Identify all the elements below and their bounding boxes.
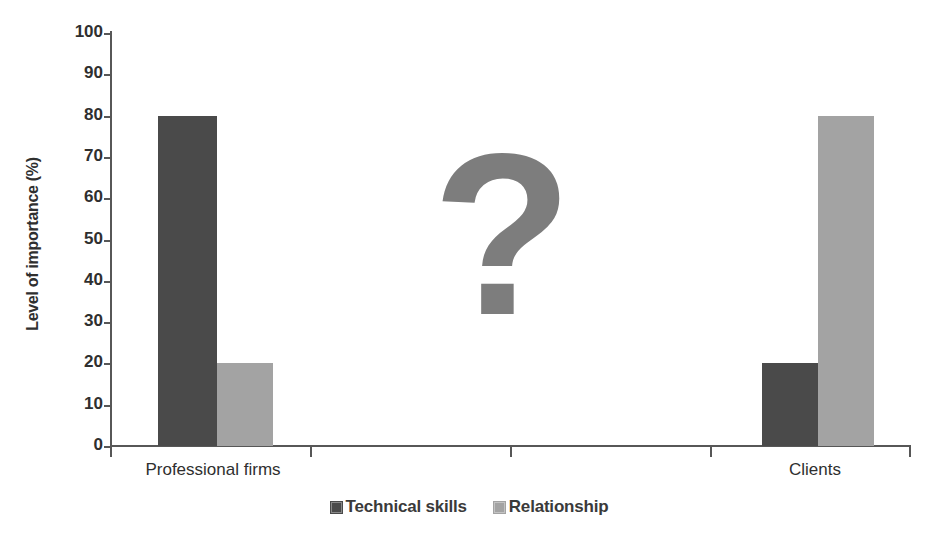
y-tick-label-10: 10 [84,394,103,414]
y-tick-label-80: 80 [84,105,103,125]
question-mark-annotation: ? [432,120,572,350]
y-tick-label-40: 40 [84,270,103,290]
legend-swatch-light-icon [493,501,506,514]
legend-item-relationship: Relationship [493,497,609,517]
legend: Technical skills Relationship [0,497,938,517]
legend-swatch-dark-icon [330,501,343,514]
bar-chart: Level of importance (%) 100 90 80 70 60 … [0,0,938,558]
y-tick-label-60: 60 [84,187,103,207]
y-tick-label-30: 30 [84,311,103,331]
legend-label-technical-skills: Technical skills [346,497,467,517]
y-tick-label-90: 90 [84,63,103,83]
bar-clients-relationship [818,116,874,446]
x-tick-0 [110,447,112,457]
x-tick-2 [510,447,512,457]
y-tick-label-0: 0 [94,435,103,455]
legend-item-technical-skills: Technical skills [330,497,467,517]
y-tick-label-50: 50 [84,229,103,249]
x-axis-label-clients: Clients [789,460,841,480]
bar-clients-technical-skills [762,363,818,446]
x-tick-1 [310,447,312,457]
x-tick-4 [909,447,911,457]
y-axis-title: Level of importance (%) [24,104,42,384]
y-tick-label-70: 70 [84,146,103,166]
bar-professional-firms-technical-skills [158,116,217,446]
x-axis-label-professional-firms: Professional firms [145,460,280,480]
legend-label-relationship: Relationship [509,497,609,517]
x-tick-3 [710,447,712,457]
bar-professional-firms-relationship [217,363,273,446]
y-tick-label-20: 20 [84,352,103,372]
y-tick-label-100: 100 [75,22,103,42]
